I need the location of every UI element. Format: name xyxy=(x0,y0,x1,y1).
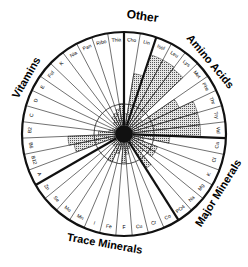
item-label-pan: Pan xyxy=(82,42,93,51)
item-label-cu: Cu xyxy=(135,223,142,230)
item-label-isol: Isol xyxy=(156,43,166,52)
item-label-try: Try xyxy=(213,111,220,120)
item-label-e: E xyxy=(39,83,46,89)
group-label-other: Other xyxy=(126,7,160,25)
item-label-mn: Mn xyxy=(76,212,85,221)
item-label-met: Met xyxy=(192,69,202,80)
item-label-a: A xyxy=(36,171,43,177)
item-label-phe: Phe xyxy=(201,81,211,92)
item-label-c: C xyxy=(28,112,35,117)
item-label-nia: Nia xyxy=(69,49,79,58)
item-label-cho: Cho xyxy=(127,36,137,43)
item-label-fe: Fe xyxy=(106,223,113,230)
item-label-b12: B12 xyxy=(30,155,38,165)
item-label-na: Na xyxy=(187,194,196,203)
item-label-se: Se xyxy=(52,194,61,203)
item-label-co: Co xyxy=(163,212,172,220)
item-label-k: K xyxy=(58,59,65,66)
item-label-fol: Fol xyxy=(46,70,55,79)
item-label-mg: Mg xyxy=(196,182,205,191)
group-label-vitamins: Vitamins xyxy=(9,55,42,101)
item-label-mo: Mo xyxy=(63,204,72,213)
item-label-leu: Leu xyxy=(169,49,179,59)
item-label-lin: Lin xyxy=(143,38,151,45)
nutrient-wheel-chart: ChoLinIsolLeuLysMetPheThrTryValCaClKMgNa… xyxy=(0,0,248,267)
item-label-lys: Lys xyxy=(182,58,192,68)
item-label-f: F xyxy=(122,224,125,230)
item-label-zn: Zn xyxy=(43,183,51,191)
item-label-ca: Ca xyxy=(213,142,220,149)
item-label-b2: B2 xyxy=(26,127,32,134)
item-label-d: D xyxy=(32,97,39,103)
item-label-thia: Thia xyxy=(111,36,121,43)
item-label-thr: Thr xyxy=(208,96,216,105)
item-label-val: Val xyxy=(215,127,221,134)
group-label-major-minerals: Major Minerals xyxy=(193,157,244,229)
item-label-i: I xyxy=(93,219,96,225)
hub xyxy=(115,125,133,143)
item-label-ribo: Ribo xyxy=(96,38,108,46)
item-label-k: K xyxy=(205,171,212,177)
item-label-b6: B6 xyxy=(28,142,35,149)
item-label-cr: Cr xyxy=(150,219,157,226)
item-label-cl: Cl xyxy=(210,157,217,163)
